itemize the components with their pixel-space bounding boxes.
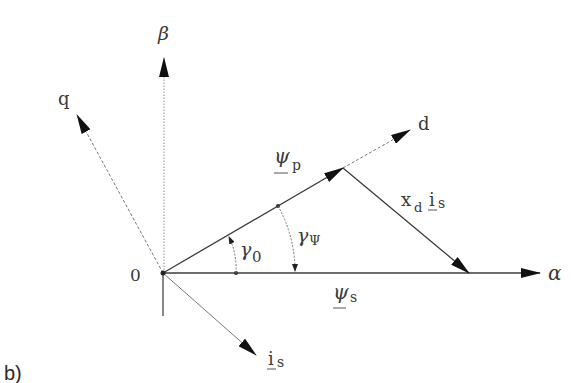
beta-label: β <box>157 22 169 44</box>
svg-text:s: s <box>277 354 284 370</box>
origin-label: 0 <box>130 265 141 285</box>
svg-text:ψ: ψ <box>333 280 349 304</box>
panel-label: b) <box>4 362 22 383</box>
svg-text:d: d <box>414 200 422 215</box>
is-vector <box>163 273 256 355</box>
is-label: i s <box>267 348 284 370</box>
svg-text:s: s <box>350 289 357 305</box>
svg-text:ψ: ψ <box>274 144 290 168</box>
gamma-psi-arc <box>278 206 295 271</box>
svg-text:γ: γ <box>297 224 309 246</box>
alpha-label: α <box>548 261 562 285</box>
origin-dot <box>161 271 166 276</box>
d-axis <box>343 130 410 168</box>
svg-text:0: 0 <box>252 248 262 266</box>
q-label: q <box>58 88 70 109</box>
svg-text:s: s <box>438 195 445 211</box>
gamma-psi-label: γ Ψ <box>297 224 320 248</box>
svg-text:i: i <box>429 189 435 210</box>
psi-s-label: ψ s <box>333 280 357 308</box>
svg-text:p: p <box>292 157 301 173</box>
q-axis <box>77 115 163 273</box>
svg-text:i: i <box>268 348 274 369</box>
svg-text:x: x <box>401 189 411 210</box>
gamma0-label: γ 0 <box>240 238 262 266</box>
psi-p-label: ψ p <box>274 144 301 173</box>
d-label: d <box>418 113 430 134</box>
phasor-diagram: β q d α 0 ψ p x d i s ψ s i s γ 0 γ Ψ b) <box>0 0 578 383</box>
svg-text:γ: γ <box>240 238 252 260</box>
xd-is-vector <box>343 168 469 273</box>
gamma0-arc <box>229 237 236 273</box>
svg-text:Ψ: Ψ <box>309 233 320 248</box>
xd-is-label: x d i s <box>401 189 445 215</box>
